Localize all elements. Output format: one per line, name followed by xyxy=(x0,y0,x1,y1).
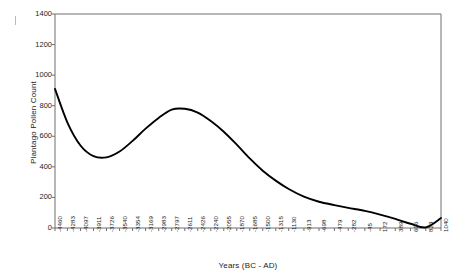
x-axis-tick-label: -2797 xyxy=(174,216,180,232)
x-axis-tick-label: -2426 xyxy=(200,216,206,232)
x-axis-tick-label: -4283 xyxy=(70,216,76,232)
x-axis-tick-labels: -4460-4283-4097-3911-3726-3540-3354-3169… xyxy=(0,0,451,279)
x-axis-tick-label: -2055 xyxy=(226,216,232,232)
x-axis-tick-label: -3726 xyxy=(109,216,115,232)
x-axis-tick-label: 172 xyxy=(382,222,388,232)
x-axis-tick-label: -282 xyxy=(351,220,357,232)
x-axis-tick-label: 389 xyxy=(398,222,404,232)
x-axis-tick-label: -1685 xyxy=(252,216,258,232)
x-axis-tick-label: 823 xyxy=(428,222,434,232)
x-axis-tick-label: -3911 xyxy=(96,217,102,232)
pollen-count-chart-figure: Plantago Pollen Count 020040060080010001… xyxy=(0,0,451,279)
x-axis-tick-label: -45 xyxy=(367,223,373,232)
x-axis-tick-label: -1500 xyxy=(265,216,271,232)
x-axis-title: Years (BC - AD) xyxy=(55,261,441,270)
x-axis-tick-label: -1130 xyxy=(291,217,297,232)
x-axis-tick-label: 1040 xyxy=(443,218,449,232)
x-axis-tick-label: -4097 xyxy=(83,216,89,232)
x-axis-tick-label: -1870 xyxy=(239,216,245,232)
x-axis-tick-label: -3169 xyxy=(148,216,154,232)
x-axis-tick-label: -1315 xyxy=(278,216,284,232)
x-axis-tick-label: -2983 xyxy=(161,216,167,232)
x-axis-tick-label: -2240 xyxy=(213,216,219,232)
x-axis-tick-label: -2611 xyxy=(187,217,193,232)
x-axis-tick-label: 606 xyxy=(413,222,419,232)
x-axis-tick-label: -479 xyxy=(337,220,343,232)
x-axis-tick-label: -3354 xyxy=(135,216,141,232)
x-axis-tick-label: -3540 xyxy=(122,216,128,232)
x-axis-tick-label: -4460 xyxy=(57,216,63,232)
x-axis-tick-label: -913 xyxy=(306,220,312,232)
x-axis-tick-label: -698 xyxy=(321,220,327,232)
